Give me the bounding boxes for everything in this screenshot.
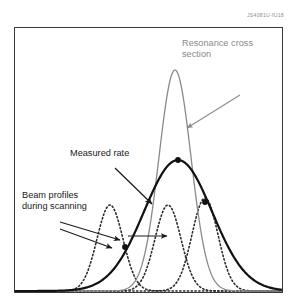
resonance-cross-section-label: Resonance cross section [182, 38, 253, 61]
curve-beam-profile-2 [15, 205, 282, 291]
data-point-marker-2 [175, 157, 181, 163]
figure-root: JS4081U-fU18 Resonance c [0, 0, 297, 307]
measured-arrow [115, 168, 152, 204]
data-point-marker-3 [202, 199, 208, 205]
beam-arrow-lower [60, 229, 112, 248]
curve-measured-rate [15, 160, 282, 291]
resonance-arrow [187, 95, 240, 128]
data-point-marker-1 [122, 244, 128, 250]
beam-arrow-upper [60, 222, 120, 240]
curve-beam-profile-1 [15, 205, 282, 291]
curve-resonance-cross-section [15, 70, 282, 291]
curves-group [15, 70, 282, 291]
beam-profiles-label: Beam profiles during scanning [22, 190, 87, 213]
measured-rate-label: Measured rate [70, 148, 129, 159]
